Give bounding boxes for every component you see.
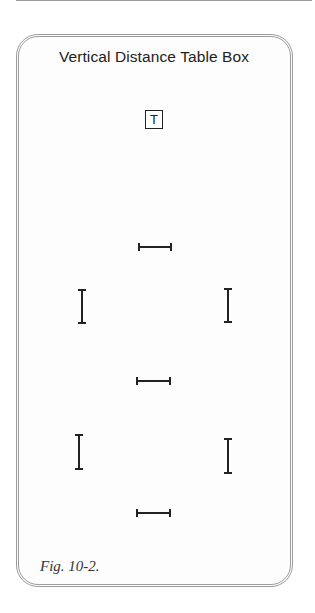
marker-cap bbox=[138, 243, 140, 251]
figure-caption: Fig. 10-2. bbox=[40, 558, 100, 575]
marker-cap bbox=[169, 377, 171, 385]
marker-line bbox=[227, 288, 229, 323]
marker-cap bbox=[78, 289, 86, 291]
marker-cap bbox=[75, 468, 83, 470]
marker-line bbox=[136, 380, 171, 382]
marker-line bbox=[81, 289, 83, 324]
diagram-title: Vertical Distance Table Box bbox=[0, 48, 308, 66]
marker-line bbox=[227, 438, 229, 474]
marker-cap bbox=[136, 509, 138, 517]
horizontal-distance-marker-top-center bbox=[138, 243, 172, 250]
horizontal-distance-marker-bottom-center bbox=[136, 509, 171, 516]
table-marker-label: T bbox=[150, 113, 158, 126]
marker-cap bbox=[170, 243, 172, 251]
table-marker-box: T bbox=[145, 110, 163, 129]
marker-line bbox=[78, 434, 80, 470]
marker-cap bbox=[78, 322, 86, 324]
marker-cap bbox=[75, 434, 83, 436]
top-rule bbox=[16, 0, 312, 1]
marker-cap bbox=[224, 438, 232, 440]
marker-cap bbox=[224, 321, 232, 323]
marker-cap bbox=[136, 377, 138, 385]
vertical-distance-marker-lower-left bbox=[75, 434, 83, 470]
vertical-distance-marker-lower-right bbox=[224, 438, 232, 474]
marker-line bbox=[136, 512, 171, 514]
horizontal-distance-marker-middle-center bbox=[136, 377, 171, 384]
vertical-distance-marker-upper-left bbox=[78, 289, 86, 324]
marker-line bbox=[138, 246, 172, 248]
marker-cap bbox=[224, 288, 232, 290]
vertical-distance-marker-upper-right bbox=[224, 288, 232, 323]
marker-cap bbox=[224, 472, 232, 474]
marker-cap bbox=[169, 509, 171, 517]
